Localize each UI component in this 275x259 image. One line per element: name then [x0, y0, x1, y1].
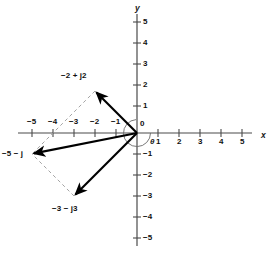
point-label--2+j2: −2 + j2	[61, 72, 87, 80]
vector--5-j	[34, 133, 137, 153]
y-tick-label--5: −5	[143, 234, 152, 242]
y-tick-label--3: −3	[143, 192, 152, 200]
y-tick-label--1: −1	[143, 150, 152, 158]
point-label--5-j: −5 − j	[2, 150, 23, 158]
dashed-line-a-to-sum	[32, 91, 95, 154]
angle-theta-label: θ	[150, 138, 155, 146]
x-tick-label--5: −5	[27, 118, 36, 126]
y-axis-label: y	[135, 4, 140, 13]
x-tick-label--3: −3	[69, 118, 78, 126]
x-tick-label-4: 4	[219, 138, 224, 146]
y-tick-label--2: −2	[143, 171, 152, 179]
y-tick-label-3: 3	[143, 60, 148, 68]
origin-label: 0	[140, 120, 145, 128]
x-tick-label-5: 5	[240, 138, 245, 146]
x-axis-label: x	[261, 131, 266, 140]
vector--2+j2	[97, 93, 138, 134]
y-tick-label--4: −4	[143, 213, 152, 221]
x-tick-label--4: −4	[48, 118, 57, 126]
x-tick-label-1: 1	[156, 138, 161, 146]
vector--3-j3	[76, 133, 138, 195]
plot-canvas	[0, 0, 275, 259]
x-tick-label--2: −2	[90, 118, 99, 126]
y-tick-label-5: 5	[143, 18, 148, 26]
complex-plane-figure: y x 0 θ −5 −4 −3 −2 −1 1 2 3 4 5 5 4 3 2…	[0, 0, 275, 259]
x-tick-label-3: 3	[198, 138, 203, 146]
y-tick-label-4: 4	[143, 39, 148, 47]
x-tick-label--1: −1	[111, 118, 120, 126]
vectors	[34, 93, 137, 195]
dashed-line-b-to-sum	[32, 154, 74, 196]
y-tick-label-2: 2	[143, 81, 148, 89]
y-tick-label-1: 1	[143, 102, 148, 110]
point-label--3-j3: −3 − j3	[52, 205, 78, 213]
x-tick-label-2: 2	[177, 138, 182, 146]
